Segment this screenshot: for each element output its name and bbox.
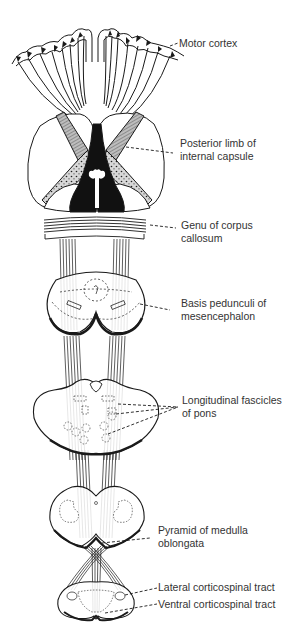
label-text: Motor cortex [179, 37, 237, 50]
label-text: callosum [181, 232, 253, 245]
label-text: Posterior limb of [180, 137, 256, 150]
label-text: Genu of corpus [181, 219, 253, 232]
label-text: Ventral corticospinal tract [158, 598, 275, 611]
midbrain-section [47, 272, 145, 334]
label-text: of pons [182, 407, 282, 420]
spinal-cord-section [58, 582, 134, 621]
label-text: mesencephalon [181, 310, 266, 323]
pons-section [33, 379, 158, 454]
label-text: Basis pedunculi of [181, 297, 266, 310]
label-text: Pyramid of medulla [158, 524, 248, 537]
label-pyramid-medulla: Pyramid of medulla oblongata [158, 524, 248, 549]
label-longitudinal-fascicles-pons: Longitudinal fascicles of pons [182, 394, 282, 419]
label-basis-pedunculi: Basis pedunculi of mesencephalon [181, 297, 266, 322]
genu-corpus-callosum-section [44, 217, 146, 239]
label-motor-cortex: Motor cortex [179, 37, 237, 50]
internal-capsule-section [28, 112, 165, 212]
label-text: Longitudinal fascicles [182, 394, 282, 407]
label-ventral-corticospinal-tract: Ventral corticospinal tract [158, 598, 275, 611]
label-text: internal capsule [180, 150, 256, 163]
label-lateral-corticospinal-tract: Lateral corticospinal tract [158, 581, 275, 594]
label-text: oblongata [158, 537, 248, 550]
motor-cortex-section [12, 29, 184, 118]
label-genu-corpus-callosum: Genu of corpus callosum [181, 219, 253, 244]
label-posterior-limb-internal-capsule: Posterior limb of internal capsule [180, 137, 256, 162]
label-text: Lateral corticospinal tract [158, 581, 275, 594]
medulla-section [50, 486, 144, 548]
